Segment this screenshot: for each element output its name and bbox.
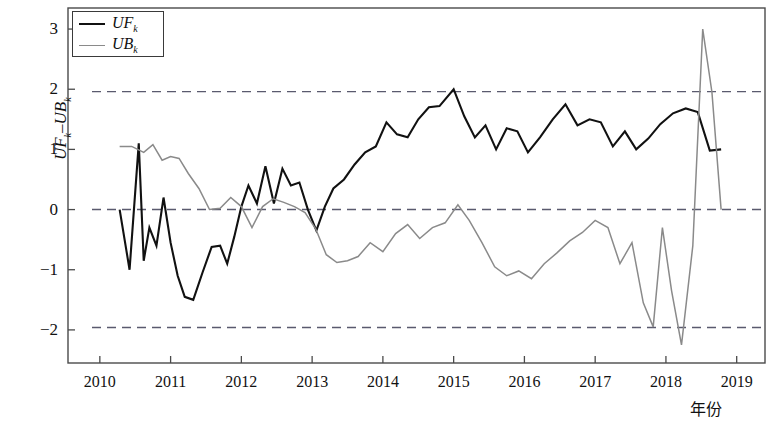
x-tick-label: 2019 bbox=[707, 373, 767, 391]
x-axis-label: 年份 bbox=[690, 396, 722, 420]
legend: UFk UBk bbox=[72, 11, 164, 57]
chart-figure: UFk–UBk 年份 UFk UBk −2−10123 201020112012… bbox=[0, 0, 776, 422]
x-tick-label: 2016 bbox=[494, 373, 554, 391]
x-tick-label: 2014 bbox=[353, 373, 413, 391]
y-tick-label: 0 bbox=[24, 200, 58, 220]
legend-label-uf: UFk bbox=[112, 14, 138, 34]
plot-frame bbox=[68, 8, 765, 363]
x-tick-label: 2013 bbox=[282, 373, 342, 391]
y-tick-label: −1 bbox=[24, 260, 58, 280]
y-tick-label: 3 bbox=[24, 19, 58, 39]
legend-swatch-ub-icon bbox=[79, 45, 105, 46]
legend-item-uf: UFk bbox=[77, 13, 138, 35]
y-tick-label: −2 bbox=[24, 320, 58, 340]
x-tick-label: 2017 bbox=[565, 373, 625, 391]
x-tick-label: 2010 bbox=[70, 373, 130, 391]
y-tick-label: 2 bbox=[24, 79, 58, 99]
legend-item-ub: UBk bbox=[77, 34, 138, 56]
y-tick-label: 1 bbox=[24, 139, 58, 159]
x-tick-label: 2015 bbox=[424, 373, 484, 391]
plot-canvas bbox=[0, 0, 776, 422]
x-tick-label: 2018 bbox=[636, 373, 696, 391]
series-line-uf-k bbox=[120, 89, 721, 300]
x-tick-label: 2011 bbox=[141, 373, 201, 391]
legend-label-ub: UBk bbox=[112, 35, 138, 55]
x-tick-label: 2012 bbox=[211, 373, 271, 391]
series-line-ub-k bbox=[120, 29, 721, 345]
legend-swatch-uf-icon bbox=[79, 23, 105, 25]
